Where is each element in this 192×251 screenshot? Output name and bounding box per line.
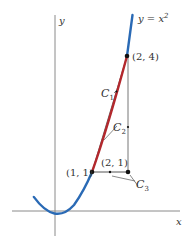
label-c2: C2 [113,121,126,136]
point-2-4 [125,54,130,59]
label-c2-sub: 2 [121,128,125,136]
label-c3-sub: 3 [144,185,148,193]
path-c2-arc [92,56,127,172]
parabola-lower [34,172,92,214]
label-point-1-1: (1, 1) [66,167,93,178]
point-c1-marker [116,91,118,93]
point-2-1 [126,170,131,175]
label-point-2-4: (2, 4) [132,51,159,62]
x-axis-label: x [176,216,182,227]
curve-label: y = x2 [137,12,169,24]
label-c1-sub: 1 [109,94,113,102]
point-c2-marker [127,126,129,128]
point-2-1-mid [109,171,111,173]
label-c3: C3 [136,178,149,193]
diagram-canvas: y x y = x2 (2, 4) (1, 1) (2, 1) C1 C2 C3 [0,0,192,251]
label-point-2-1: (2, 1) [101,157,128,168]
diagram-svg: y x y = x2 (2, 4) (1, 1) (2, 1) C1 C2 C3 [0,0,192,251]
y-axis-label: y [58,15,65,26]
label-c1: C1 [101,87,114,102]
curve-label-exponent: 2 [163,12,169,20]
parabola-upper [127,15,133,56]
curve-label-base: y = x [137,13,164,24]
